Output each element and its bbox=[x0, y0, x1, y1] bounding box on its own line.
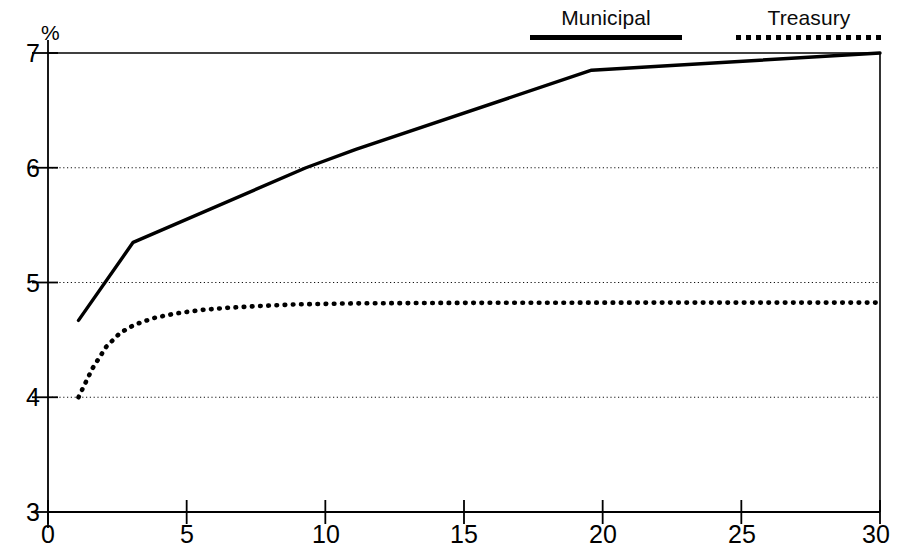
chart-figure: Municipal Treasury % 7 6 5 4 3 0 5 10 15… bbox=[0, 0, 907, 560]
series-line-municipal bbox=[79, 53, 880, 320]
series-line-treasury bbox=[79, 303, 880, 398]
grid-lines bbox=[48, 168, 880, 398]
y-axis-ticks bbox=[32, 53, 58, 512]
plot-area bbox=[0, 0, 907, 560]
